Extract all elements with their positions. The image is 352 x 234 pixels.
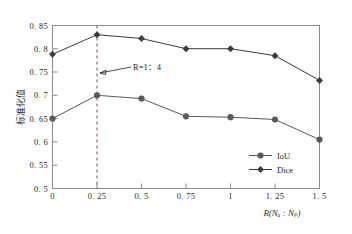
x-tick-label: 0. 25 xyxy=(88,191,107,201)
iou-point xyxy=(183,113,189,119)
iou-point xyxy=(316,137,322,143)
r-ratio-annotation-label: R=1：4 xyxy=(133,62,162,72)
iou-point xyxy=(272,116,278,122)
y-tick-label: 0. 8 xyxy=(34,44,48,54)
normalized-value-line-chart: 0. 5 0. 55 0. 6 0. 65 0. 7 0. 75 xyxy=(0,0,352,234)
iou-point xyxy=(227,114,233,120)
y-tick-label: 0. 85 xyxy=(30,21,49,31)
y-tick-label: 0. 55 xyxy=(30,160,49,170)
chart-container: 0. 5 0. 55 0. 6 0. 65 0. 7 0. 75 xyxy=(0,0,352,234)
y-tick-label: 0. 75 xyxy=(30,67,49,77)
x-tick-label: 1. 5 xyxy=(313,191,327,201)
y-tick-label: 0. 7 xyxy=(34,90,48,100)
x-tick-label: 1 xyxy=(228,191,233,201)
x-tick-label: 0. 75 xyxy=(177,191,196,201)
legend-marker-iou xyxy=(257,152,263,158)
legend-label-iou: IoU xyxy=(277,151,290,161)
iou-point xyxy=(94,92,100,98)
y-axis-title: 标准化值 xyxy=(15,89,26,125)
x-tick-label: 0 xyxy=(50,191,55,201)
x-tick-label: 0. 5 xyxy=(135,191,149,201)
y-tick-label: 0. 6 xyxy=(34,137,48,147)
iou-point xyxy=(138,96,144,102)
x-tick-label: 1. 25 xyxy=(266,191,285,201)
legend-label-dice: Dice xyxy=(277,165,293,175)
y-tick-label: 0. 65 xyxy=(30,114,49,124)
x-axis-title: R(Nₐ : Nₚ) xyxy=(262,208,300,218)
y-tick-label: 0. 5 xyxy=(34,184,48,194)
iou-point xyxy=(49,116,55,122)
